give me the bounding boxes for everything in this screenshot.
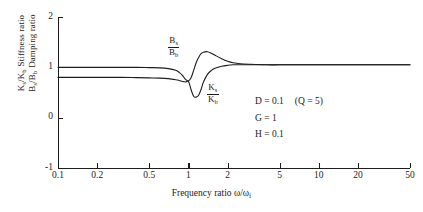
annotation-q: (Q = 5)	[295, 96, 323, 106]
x-axis-label: Frequency ratio ω/ωf	[0, 188, 423, 199]
curve-label-damping-ratio: Bs Bb	[168, 36, 179, 59]
curve-stiffness-ratio	[58, 65, 410, 98]
annotation-g: G = 1	[255, 113, 277, 123]
annotation-row-h: H = 0.1	[255, 126, 323, 143]
curve-damping-ratio	[58, 52, 410, 81]
parameter-annotations: D = 0.1(Q = 5) G = 1 H = 0.1	[255, 93, 323, 143]
curve-label-k-denominator: Kb	[207, 95, 219, 106]
x-axis-label-text: Frequency ratio ω/ω	[172, 188, 249, 198]
annotation-d: D = 0.1	[255, 96, 284, 106]
chart-figure: Ks/KbStiffness ratio Bs/BbDamping ratio …	[0, 0, 423, 212]
x-axis-label-subscript: f	[249, 192, 251, 199]
plot-curves	[0, 0, 423, 212]
annotation-row-g: G = 1	[255, 110, 323, 127]
curve-label-b-denominator: Bb	[168, 48, 179, 59]
curve-label-stiffness-ratio: Ks Kb	[207, 83, 219, 106]
annotation-h: H = 0.1	[255, 129, 284, 139]
annotation-row-d: D = 0.1(Q = 5)	[255, 93, 323, 110]
